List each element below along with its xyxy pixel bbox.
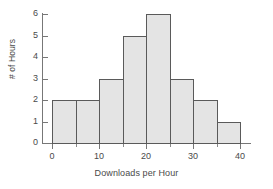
- x-tick-mark-minor: [76, 144, 77, 147]
- x-tick-mark-minor: [170, 144, 171, 147]
- histogram-bar: [217, 122, 242, 145]
- x-tick-mark: [240, 144, 241, 149]
- histogram-bar: [193, 100, 218, 144]
- histogram-bar: [99, 79, 124, 145]
- y-tick-label: 2: [20, 95, 38, 104]
- x-tick-label: 30: [183, 152, 203, 161]
- x-tick-mark-minor: [217, 144, 218, 147]
- histogram-chart: # of Hours 0123456 010203040 Downloads p…: [0, 0, 273, 189]
- x-tick-mark: [193, 144, 194, 149]
- histogram-bar: [170, 79, 195, 145]
- y-tick-label: 6: [20, 9, 38, 18]
- x-tick-label: 40: [230, 152, 250, 161]
- y-tick-label: 3: [20, 74, 38, 83]
- x-tick-label: 20: [136, 152, 156, 161]
- y-tick-label: 0: [20, 138, 38, 147]
- y-tick-label: 1: [20, 117, 38, 126]
- y-tick-label: 4: [20, 52, 38, 61]
- y-tick-mark: [43, 100, 48, 101]
- y-tick-mark: [43, 122, 48, 123]
- x-tick-mark: [146, 144, 147, 149]
- x-tick-label: 10: [89, 152, 109, 161]
- y-tick-mark: [43, 143, 48, 144]
- x-axis-title: Downloads per Hour: [0, 168, 273, 178]
- y-axis-title: # of Hours: [7, 29, 17, 89]
- y-tick-label: 5: [20, 31, 38, 40]
- histogram-bar: [52, 100, 77, 144]
- histogram-bar: [76, 100, 101, 144]
- y-tick-mark: [43, 79, 48, 80]
- plot-area: # of Hours 0123456 010203040 Downloads p…: [0, 0, 273, 189]
- histogram-bar: [123, 36, 148, 145]
- histogram-bar: [146, 14, 171, 144]
- x-tick-label: 0: [42, 152, 62, 161]
- y-tick-mark: [43, 36, 48, 37]
- x-tick-mark-minor: [123, 144, 124, 147]
- x-tick-mark: [99, 144, 100, 149]
- y-tick-mark: [43, 57, 48, 58]
- x-tick-mark: [52, 144, 53, 149]
- y-tick-mark: [43, 14, 48, 15]
